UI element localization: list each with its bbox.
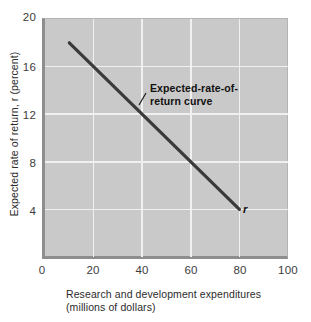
x-tick-label-40: 40 bbox=[126, 265, 158, 277]
curve-endpoint-label: r bbox=[243, 204, 247, 215]
x-axis-title-line-2: (millions of dollars) bbox=[66, 301, 296, 314]
chart-figure: Expected rate of return, r (percent) 20 … bbox=[0, 0, 311, 322]
expected-rate-of-return-curve bbox=[69, 43, 239, 210]
x-tick-label-80: 80 bbox=[224, 265, 256, 277]
curve-annotation: Expected-rate-of- return curve bbox=[150, 82, 238, 107]
x-tick-label-20: 20 bbox=[77, 265, 109, 277]
x-tick-label-60: 60 bbox=[175, 265, 207, 277]
x-axis-title: Research and development expenditures (m… bbox=[66, 288, 296, 314]
y-tick-label-4: 4 bbox=[0, 206, 36, 218]
curve-annotation-line-2: return curve bbox=[150, 95, 238, 108]
chart-canvas bbox=[45, 19, 288, 257]
y-tick-label-20: 20 bbox=[0, 12, 36, 24]
x-tick-label-0: 0 bbox=[28, 265, 56, 277]
curve-annotation-line-1: Expected-rate-of- bbox=[150, 82, 238, 95]
plot-area: Expected-rate-of- return curve r bbox=[42, 18, 288, 259]
y-tick-label-16: 16 bbox=[0, 62, 36, 74]
y-tick-label-8: 8 bbox=[0, 158, 36, 170]
plot-inner: Expected-rate-of- return curve r bbox=[45, 19, 287, 256]
x-axis-title-line-1: Research and development expenditures bbox=[66, 288, 296, 301]
y-tick-label-12: 12 bbox=[0, 110, 36, 122]
x-tick-label-100: 100 bbox=[271, 265, 305, 277]
